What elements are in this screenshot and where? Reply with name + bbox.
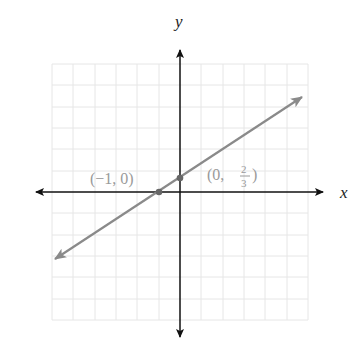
point-neg1-0	[156, 189, 163, 196]
point-0-two-thirds	[177, 175, 184, 182]
coordinate-plane: y x (−1, 0) (0, 2 3 )	[0, 0, 363, 354]
point2-fraction-numerator: 2	[241, 163, 247, 175]
point2-label-prefix: (0,	[207, 166, 224, 184]
x-axis-label: x	[339, 183, 348, 202]
point2-label-suffix: )	[252, 166, 257, 184]
y-axis-label: y	[173, 12, 183, 31]
point1-label: (−1, 0)	[90, 170, 134, 188]
point2-fraction-denominator: 3	[241, 177, 247, 189]
